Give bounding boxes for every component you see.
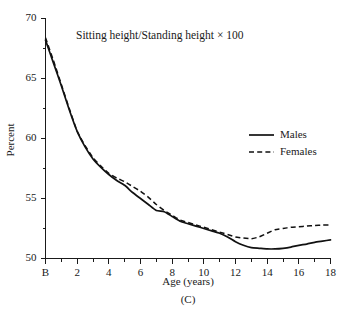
x-axis-ticks: [46, 259, 331, 264]
y-tick-label: 55: [26, 191, 38, 203]
x-tick-label: 4: [106, 266, 112, 278]
y-axis-ticks: [41, 19, 46, 259]
y-tick-label: 60: [26, 131, 38, 143]
panel-label: (C): [181, 293, 196, 306]
data-series-group: [46, 38, 331, 249]
x-tick-label: 6: [138, 266, 144, 278]
y-axis-title: Percent: [4, 124, 16, 157]
x-tick-label: 18: [325, 266, 337, 278]
x-tick-label: 14: [262, 266, 274, 278]
legend: Males Females: [249, 128, 317, 157]
chart-title: Sitting height/Standing height × 100: [76, 29, 244, 42]
x-axis-title: Age (years): [162, 275, 214, 288]
y-tick-label: 65: [26, 71, 38, 83]
legend-label-males: Males: [280, 128, 307, 140]
x-tick-label: 16: [293, 266, 305, 278]
x-tick-label: 12: [230, 266, 241, 278]
chart-svg: 5055606570 B24681012141618 Percent Age (…: [0, 0, 350, 319]
y-tick-label: 70: [26, 11, 38, 23]
x-tick-label: B: [42, 266, 49, 278]
y-tick-label: 50: [26, 251, 38, 263]
y-axis-tick-labels: 5055606570: [26, 11, 38, 263]
plot-axes: [41, 19, 331, 264]
x-tick-label: 2: [74, 266, 80, 278]
chart-figure: 5055606570 B24681012141618 Percent Age (…: [0, 0, 350, 319]
legend-label-females: Females: [280, 145, 317, 157]
